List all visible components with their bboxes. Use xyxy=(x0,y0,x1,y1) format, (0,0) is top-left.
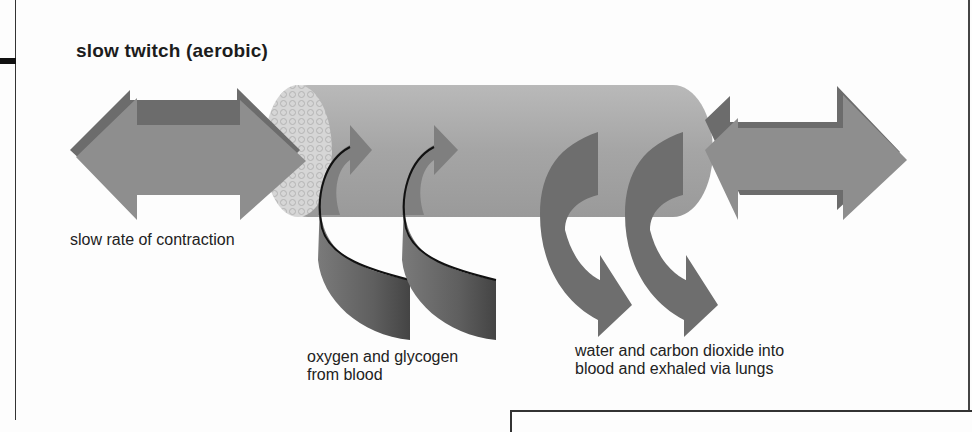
left-double-arrow xyxy=(70,88,306,220)
right-double-arrow xyxy=(705,86,907,220)
contraction-label: slow rate of contraction xyxy=(70,231,235,249)
outflow-label-line1: water and carbon dioxide into xyxy=(575,342,784,360)
diagram-title: slow twitch (aerobic) xyxy=(76,40,268,62)
inflow-label-line1: oxygen and glycogen xyxy=(307,348,458,366)
outflow-label: water and carbon dioxide into blood and … xyxy=(575,342,784,378)
outflow-label-line2: blood and exhaled via lungs xyxy=(575,360,784,378)
inflow-label: oxygen and glycogen from blood xyxy=(307,348,458,384)
inflow-label-line2: from blood xyxy=(307,366,458,384)
